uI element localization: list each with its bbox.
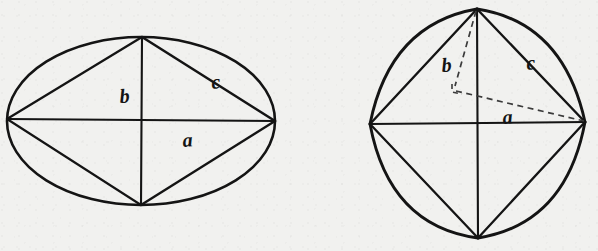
diagram-canvas: b c a b [0, 0, 598, 251]
right-label-c: c [525, 51, 536, 74]
right-panel: b c a [370, 9, 585, 238]
figure-page: b c a b [0, 0, 598, 251]
left-label-c: c [210, 70, 221, 93]
left-vertical-axis-line [141, 37, 142, 205]
dashed-base-a-line [456, 91, 584, 121]
right-vertical-axis-line [477, 9, 478, 238]
left-label-b: b [119, 84, 131, 107]
left-panel: b c a [7, 37, 275, 205]
left-chord-lower-left [7, 119, 141, 205]
right-chord-lower-left [370, 124, 478, 238]
right-label-b: b [441, 53, 453, 76]
left-label-a: a [182, 128, 194, 151]
right-label-a: a [502, 105, 514, 128]
right-chord-lower-right [478, 122, 585, 238]
